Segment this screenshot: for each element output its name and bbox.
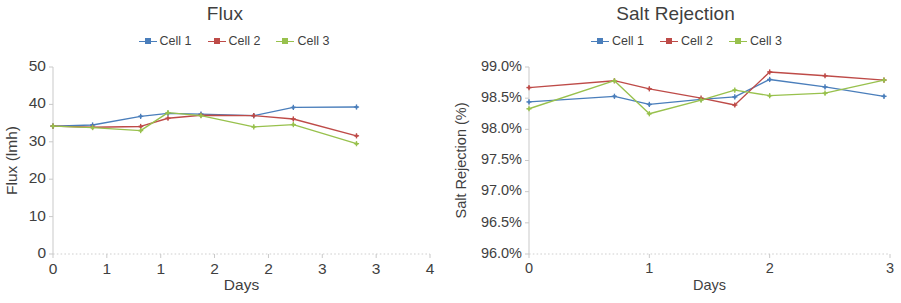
data-point (138, 114, 143, 119)
x-tick-label: 3 (372, 260, 381, 277)
data-point (767, 77, 772, 82)
series-line-cell-3 (529, 80, 884, 114)
y-axis-title: Flux (lmh) (3, 126, 20, 195)
y-tick-label: 98.5% (481, 89, 522, 105)
y-tick-label: 96.0% (481, 245, 522, 261)
y-tick-label: 98.0% (481, 120, 522, 136)
y-tick-label: 97.0% (481, 182, 522, 198)
chart-panel-salt-rejection: Salt Rejection Cell 1 Cell 2 (450, 0, 901, 303)
plot-svg-salt-rejection: 96.0%96.5%97.0%97.5%98.0%98.5%99.0%0123D… (450, 0, 901, 303)
data-point (354, 141, 359, 146)
y-tick-label: 97.5% (481, 151, 522, 167)
data-point (90, 125, 95, 130)
plot-svg-flux: 0102030405001122334DaysFlux (lmh) (0, 0, 450, 303)
y-tick-label: 50 (29, 57, 47, 74)
y-tick-label: 10 (29, 207, 47, 224)
chart-panel-flux: Flux Cell 1 Cell 2 (0, 0, 450, 303)
x-tick-label: 2 (766, 260, 774, 276)
y-axis-title: Salt Rejection (%) (453, 102, 469, 218)
x-tick-label: 3 (318, 260, 327, 277)
x-tick-label: 1 (103, 260, 112, 277)
data-point (767, 93, 772, 98)
data-point (612, 94, 617, 99)
x-tick-label: 2 (210, 260, 219, 277)
x-tick-label: 1 (156, 260, 165, 277)
data-point (822, 84, 827, 89)
y-tick-label: 99.0% (481, 58, 522, 74)
data-point (881, 77, 886, 82)
x-tick-label: 0 (525, 260, 533, 276)
y-tick-label: 30 (29, 132, 47, 149)
series-line-cell-3 (53, 113, 356, 144)
plot-area-salt-rejection: 96.0%96.5%97.0%97.5%98.0%98.5%99.0%0123D… (450, 0, 901, 303)
data-point (526, 85, 531, 90)
x-tick-label: 2 (264, 260, 273, 277)
data-point (647, 86, 652, 91)
data-point (291, 122, 296, 127)
data-point (354, 133, 359, 138)
x-tick-label: 1 (645, 260, 653, 276)
data-point (732, 87, 737, 92)
y-tick-label: 20 (29, 169, 47, 186)
y-tick-label: 0 (37, 244, 46, 261)
data-point (251, 113, 256, 118)
series-line-cell-2 (53, 115, 356, 136)
data-point (291, 105, 296, 110)
x-tick-label: 0 (49, 260, 58, 277)
data-point (647, 102, 652, 107)
figure-canvas: Flux Cell 1 Cell 2 (0, 0, 901, 303)
data-point (526, 106, 531, 111)
data-point (881, 94, 886, 99)
y-tick-label: 96.5% (481, 214, 522, 230)
data-point (291, 116, 296, 121)
data-point (732, 94, 737, 99)
data-point (526, 99, 531, 104)
data-point (822, 73, 827, 78)
x-axis-title: Days (693, 277, 726, 293)
plot-area-flux: 0102030405001122334DaysFlux (lmh) (0, 0, 450, 303)
data-point (822, 91, 827, 96)
x-axis-title: Days (224, 276, 260, 293)
y-tick-label: 40 (29, 94, 47, 111)
data-point (50, 123, 55, 128)
x-tick-label: 4 (426, 260, 435, 277)
data-point (251, 124, 256, 129)
data-point (354, 104, 359, 109)
data-point (165, 116, 170, 121)
x-tick-label: 3 (886, 260, 894, 276)
